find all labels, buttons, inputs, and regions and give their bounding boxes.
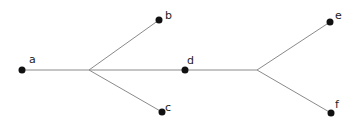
label-c: c [165, 101, 171, 114]
node-d [182, 67, 189, 74]
label-f: f [335, 98, 340, 111]
node-f [328, 110, 335, 117]
node-a [19, 67, 26, 74]
tree-diagram: a b c d e f [0, 0, 356, 124]
label-e: e [335, 9, 342, 22]
label-d: d [187, 54, 194, 67]
node-b [156, 17, 163, 24]
edges [22, 20, 331, 113]
edge-j2-f [257, 70, 331, 113]
diagram-svg: a b c d e f [0, 0, 356, 124]
nodes [19, 17, 335, 117]
label-b: b [165, 9, 172, 22]
edge-j2-e [257, 22, 330, 70]
edge-j1-b [89, 20, 159, 70]
edge-j1-c [89, 70, 162, 112]
node-e [327, 19, 334, 26]
labels: a b c d e f [29, 9, 342, 114]
label-a: a [29, 53, 36, 66]
